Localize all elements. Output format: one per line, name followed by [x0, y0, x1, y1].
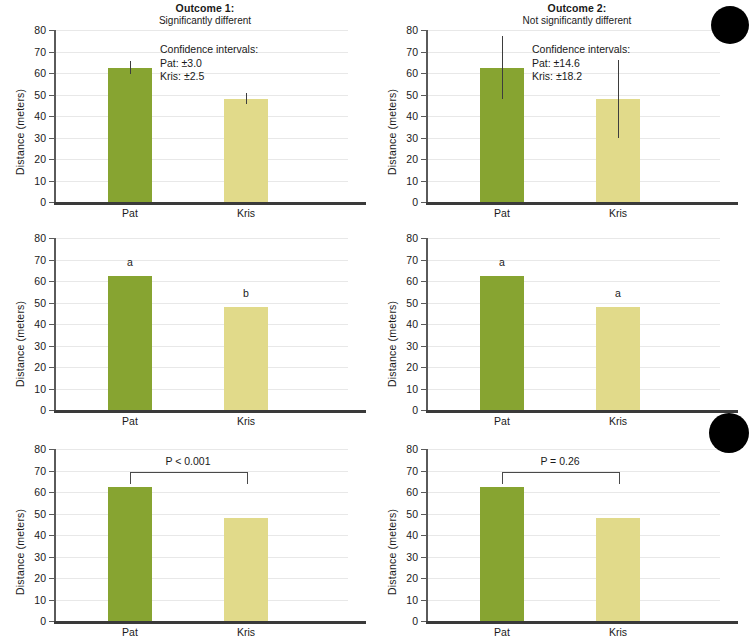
bar-pat [108, 68, 152, 202]
y-tick-label-0: 0 [22, 616, 46, 627]
y-tick-0 [49, 202, 54, 203]
gridline-40 [428, 535, 720, 536]
y-tick-20 [49, 367, 54, 368]
y-tick-label-0: 0 [394, 616, 418, 627]
y-axis-line [54, 238, 56, 411]
y-tick-60 [421, 281, 426, 282]
significance-bracket [502, 472, 620, 484]
y-tick-40 [421, 116, 426, 117]
gridline-70 [56, 260, 348, 261]
y-tick-60 [49, 492, 54, 493]
bar-pat [108, 487, 152, 621]
gridline-60 [428, 281, 720, 282]
y-tick-40 [49, 535, 54, 536]
y-tick-70 [49, 260, 54, 261]
gridline-20 [56, 367, 348, 368]
y-tick-30 [49, 346, 54, 347]
x-axis-line [54, 621, 366, 624]
y-tick-60 [49, 281, 54, 282]
ci-pat-value: Pat: ±14.6 [532, 57, 630, 71]
y-tick-label-30: 30 [22, 133, 46, 144]
y-axis-line [54, 449, 56, 622]
y-tick-label-40: 40 [22, 530, 46, 541]
gridline-80 [56, 30, 348, 31]
gridline-30 [56, 138, 348, 139]
significance-letter-kris: b [231, 288, 261, 299]
panel-outcome1-pvalue: Distance (meters) 80 70 60 50 40 [0, 423, 376, 634]
y-tick-label-70: 70 [394, 47, 418, 58]
y-tick-30 [421, 346, 426, 347]
y-tick-50 [49, 95, 54, 96]
bar-kris [224, 518, 268, 621]
y-tick-label-20: 20 [394, 362, 418, 373]
gridline-20 [56, 578, 348, 579]
x-axis-line [54, 202, 366, 205]
x-tick-label-pat: Pat [100, 627, 160, 638]
y-tick-50 [421, 514, 426, 515]
panel-title-line1: Outcome 1: [40, 2, 370, 14]
y-tick-label-40: 40 [394, 111, 418, 122]
y-tick-label-0: 0 [394, 197, 418, 208]
panel-outcome2-confidence-intervals: Outcome 2: Not significantly different D… [372, 0, 748, 211]
gridline-60 [56, 492, 348, 493]
gridline-30 [56, 346, 348, 347]
y-tick-label-40: 40 [22, 319, 46, 330]
bar-kris [596, 518, 640, 621]
gridline-10 [56, 181, 348, 182]
gridline-50 [428, 514, 720, 515]
y-tick-label-50: 50 [22, 509, 46, 520]
y-tick-50 [421, 95, 426, 96]
y-tick-70 [421, 52, 426, 53]
y-tick-20 [421, 367, 426, 368]
y-tick-50 [421, 303, 426, 304]
x-tick-label-kris: Kris [588, 627, 648, 638]
y-tick-label-20: 20 [22, 362, 46, 373]
y-tick-label-40: 40 [394, 530, 418, 541]
ci-kris-value: Kris: ±2.5 [160, 70, 258, 84]
plot-area [56, 449, 348, 621]
ci-heading: Confidence intervals: [532, 43, 630, 57]
y-tick-label-70: 70 [394, 255, 418, 266]
y-tick-label-30: 30 [394, 133, 418, 144]
panel-outcome2-pvalue: Distance (meters) 80 70 60 50 40 [372, 423, 748, 634]
panel-outcome2-letters: Distance (meters) 80 70 60 50 40 30 [372, 212, 748, 423]
y-tick-label-60: 60 [394, 68, 418, 79]
gridline-20 [428, 578, 720, 579]
significance-letter-pat: a [115, 257, 145, 268]
significance-letter-pat: a [487, 257, 517, 268]
y-tick-label-30: 30 [394, 552, 418, 563]
p-value-label: P = 0.26 [500, 456, 620, 467]
y-tick-80 [421, 30, 426, 31]
y-tick-label-80: 80 [22, 233, 46, 244]
y-tick-label-70: 70 [22, 255, 46, 266]
y-axis-line [426, 238, 428, 411]
y-tick-50 [49, 303, 54, 304]
ci-kris-value: Kris: ±18.2 [532, 70, 630, 84]
bar-pat [480, 487, 524, 621]
plot-area [56, 238, 348, 410]
confidence-interval-note: Confidence intervals: Pat: ±14.6 Kris: ±… [532, 43, 630, 84]
y-tick-0 [49, 621, 54, 622]
x-axis-line [426, 410, 738, 413]
y-tick-label-10: 10 [22, 176, 46, 187]
p-value-label: P < 0.001 [128, 456, 248, 467]
error-bar-kris [246, 93, 247, 104]
y-tick-label-40: 40 [394, 319, 418, 330]
y-tick-0 [421, 202, 426, 203]
y-tick-label-50: 50 [394, 509, 418, 520]
gridline-40 [428, 324, 720, 325]
gridline-10 [428, 389, 720, 390]
y-tick-70 [49, 52, 54, 53]
y-axis-line [426, 449, 428, 622]
y-tick-10 [49, 389, 54, 390]
gridline-60 [56, 281, 348, 282]
y-tick-70 [421, 260, 426, 261]
plot-area [428, 238, 720, 410]
gridline-20 [428, 367, 720, 368]
y-tick-80 [49, 449, 54, 450]
gridline-10 [56, 600, 348, 601]
y-tick-label-80: 80 [394, 25, 418, 36]
gridline-50 [56, 303, 348, 304]
y-tick-label-20: 20 [394, 573, 418, 584]
y-tick-label-20: 20 [394, 154, 418, 165]
